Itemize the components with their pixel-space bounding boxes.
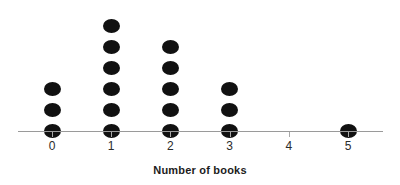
data-dot <box>103 103 120 117</box>
data-dot <box>221 103 238 117</box>
axis-tick-2 <box>170 132 171 137</box>
data-dot <box>221 82 238 96</box>
data-dot <box>44 103 61 117</box>
data-dot <box>162 61 179 75</box>
data-dot <box>103 82 120 96</box>
axis-tick-label-2: 2 <box>150 139 190 154</box>
dot-plot-area <box>0 0 400 185</box>
data-dot <box>103 40 120 54</box>
data-dot <box>162 40 179 54</box>
axis-tick-0 <box>52 132 53 137</box>
dot-plot-figure: 012345 Number of books <box>0 0 400 185</box>
data-dot <box>103 61 120 75</box>
axis-tick-4 <box>289 132 290 137</box>
axis-tick-label-5: 5 <box>328 139 368 154</box>
x-axis-line <box>18 131 383 132</box>
data-dot <box>103 19 120 33</box>
data-dot <box>44 82 61 96</box>
axis-tick-label-3: 3 <box>210 139 250 154</box>
data-dot <box>162 103 179 117</box>
axis-tick-label-4: 4 <box>269 139 309 154</box>
data-dot <box>162 82 179 96</box>
axis-tick-label-1: 1 <box>91 139 131 154</box>
axis-tick-3 <box>230 132 231 137</box>
axis-tick-5 <box>348 132 349 137</box>
axis-tick-label-0: 0 <box>32 139 72 154</box>
axis-tick-1 <box>111 132 112 137</box>
x-axis-title: Number of books <box>0 164 400 176</box>
